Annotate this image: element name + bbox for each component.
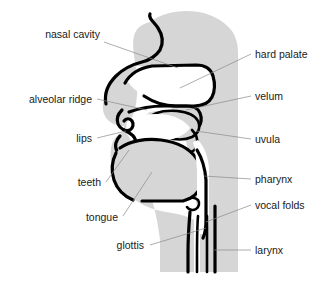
label-text-tongue: tongue	[86, 211, 118, 223]
label-text-velum: velum	[255, 90, 283, 102]
label-text-nasal-cavity: nasal cavity	[45, 28, 101, 40]
vocal-tract-diagram: nasal cavity alveolar ridge lips teeth t…	[0, 0, 324, 283]
nasal-cavity-region	[125, 65, 214, 106]
label-text-lips: lips	[76, 132, 92, 144]
label-text-glottis: glottis	[117, 239, 144, 251]
label-text-larynx: larynx	[255, 244, 284, 256]
label-text-pharynx: pharynx	[255, 173, 293, 185]
label-text-vocal-folds: vocal folds	[255, 199, 305, 211]
label-text-hard-palate: hard palate	[255, 48, 308, 60]
label-text-alveolar-ridge: alveolar ridge	[29, 93, 92, 105]
diagram-canvas: nasal cavity alveolar ridge lips teeth t…	[0, 0, 324, 283]
label-text-teeth: teeth	[78, 176, 102, 188]
label-text-uvula: uvula	[255, 133, 280, 145]
